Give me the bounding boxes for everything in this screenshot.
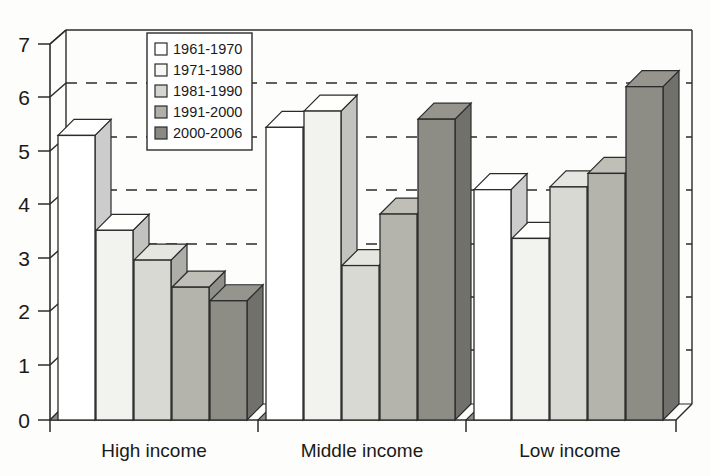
bar-high-income-2000-2006 [210,285,263,420]
y-tick-label-4: 4 [18,193,30,216]
grouped-bar-chart: 7 6 5 4 3 2 1 0 High income Middle incom… [0,0,710,476]
legend-label-1971-1980: 1971-1980 [173,62,242,78]
x-tick-label-high-income: High income [101,440,207,461]
legend-swatch-1981-1990 [155,85,167,97]
x-tick-label-low-income: Low income [519,440,620,461]
y-tick-labels: 7 6 5 4 3 2 1 0 [18,33,30,432]
chart-figure: 7 6 5 4 3 2 1 0 High income Middle incom… [0,0,710,476]
legend-label-1981-1990: 1981-1990 [173,83,242,99]
y-tick-label-0: 0 [18,409,30,432]
legend-label-1991-2000: 1991-2000 [173,104,242,120]
legend-label-1961-1970: 1961-1970 [173,41,242,57]
legend-swatch-1971-1980 [155,64,167,76]
legend-swatch-1961-1970 [155,43,167,55]
legend-swatch-1991-2000 [155,106,167,118]
chart-legend: 1961-19701971-19801981-19901991-20002000… [147,33,252,150]
x-tick-label-middle-income: Middle income [301,440,424,461]
y-tick-label-3: 3 [18,247,30,270]
y-tick-label-5: 5 [18,140,30,163]
legend-label-2000-2006: 2000-2006 [173,125,242,141]
bars-layer [48,71,679,420]
y-tick-label-1: 1 [18,354,30,377]
bar-low-income-2000-2006 [626,71,679,420]
legend-swatch-2000-2006 [155,127,167,139]
y-tick-label-7: 7 [18,33,30,56]
y-tick-label-6: 6 [18,86,30,109]
y-tick-label-2: 2 [18,300,30,323]
bar-middle-income-2000-2006 [418,103,471,420]
x-axis-ticks [50,420,676,432]
x-tick-labels: High income Middle income Low income [101,440,621,461]
